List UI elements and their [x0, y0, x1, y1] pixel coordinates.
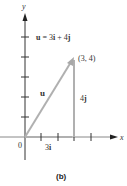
figure-caption: (b): [56, 172, 67, 181]
vertical-component-label: 4j: [80, 94, 87, 103]
horizontal-component-label: 3i: [45, 143, 52, 152]
vector-equation: u = 3i + 4j: [36, 33, 71, 42]
x-axis-label: x: [119, 133, 124, 142]
x-axis-arrow-icon: [110, 135, 118, 140]
vector-label: u: [40, 88, 45, 98]
origin-label: 0: [18, 141, 22, 150]
point-label: (3, 4): [78, 54, 96, 63]
vector-arrowhead-icon: [67, 57, 74, 66]
y-axis-arrow-icon: [23, 13, 28, 21]
y-axis-label: y: [21, 2, 26, 11]
vector-diagram: y x 0 u = 3i + 4j (3, 4) u 4j 3i (b): [0, 0, 127, 186]
vector-u: [25, 62, 71, 137]
